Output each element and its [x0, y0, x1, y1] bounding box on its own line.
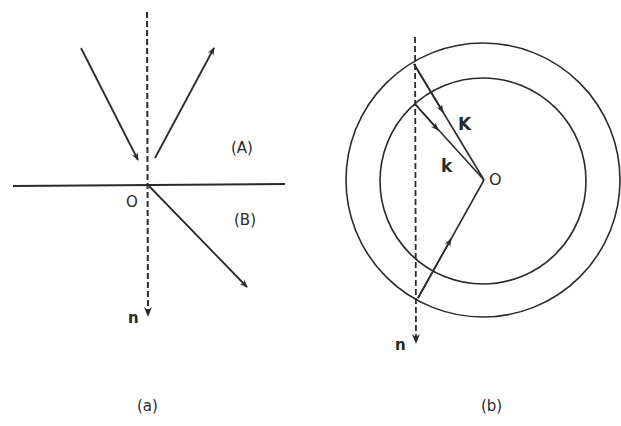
panel-b: K k O n (b): [346, 37, 620, 415]
vector-k-label: k: [441, 156, 453, 176]
normal-axis-b: [415, 37, 416, 343]
region-b-label: (B): [234, 211, 256, 229]
normal-label-a: n: [128, 309, 139, 327]
incident-ray: [81, 48, 138, 160]
interface-line: [13, 184, 285, 186]
vector-K-label: K: [458, 114, 472, 134]
lower-vector-arrow: [418, 239, 451, 298]
origin-label-a: O: [126, 193, 138, 211]
normal-axis-a: [147, 12, 148, 316]
vector-k-arrow: [415, 104, 438, 130]
normal-label-b: n: [395, 336, 406, 354]
figure-canvas: (A) (B) O n (a) K k O n (b): [0, 0, 621, 426]
region-a-label: (A): [231, 139, 253, 157]
caption-b: (b): [481, 397, 502, 415]
caption-a: (a): [137, 397, 158, 415]
panel-a: (A) (B) O n (a): [13, 12, 285, 415]
origin-label-b: O: [489, 170, 502, 189]
refracted-ray: [149, 186, 247, 287]
reflected-ray: [155, 48, 214, 158]
